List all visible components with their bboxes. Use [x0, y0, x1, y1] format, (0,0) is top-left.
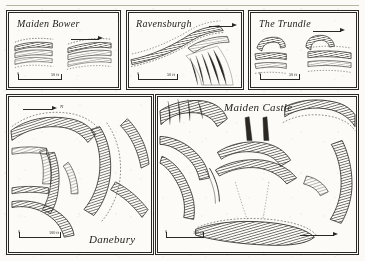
scale-bar-maiden-castle: 0 100 ft: [166, 231, 204, 243]
panel-the-trundle: The Trundle 0 50 ft: [250, 12, 357, 88]
panel-maiden-castle: Maiden Castle 0 100 ft: [157, 96, 357, 253]
north-arrow-maiden-bower: [71, 35, 105, 43]
scale-zero-label: 0: [18, 229, 20, 234]
panel-danebury: N Danebury 0 100 ft: [8, 96, 152, 253]
scale-max-label: 50 ft: [51, 72, 59, 77]
north-arrow-maiden-castle: [300, 231, 344, 239]
north-arrow-ravensburgh: [209, 22, 239, 30]
north-label: N: [60, 104, 63, 109]
panel-title-maiden-castle: Maiden Castle: [224, 101, 292, 113]
plan-drawing-maiden-castle: [158, 97, 356, 252]
scale-zero-label: 0: [259, 71, 261, 76]
scale-zero-label: 0: [165, 229, 167, 234]
scale-max-label: 100 ft: [49, 230, 59, 235]
scale-bar-the-trundle: 0 50 ft: [260, 73, 300, 85]
panel-maiden-bower: Maiden Bower 0 50 ft: [8, 12, 119, 88]
scale-max-label: 50 ft: [167, 72, 175, 77]
scale-zero-label: 0: [137, 71, 139, 76]
panel-title-ravensburgh: Ravensburgh: [136, 18, 192, 29]
north-arrow-the-trundle: [313, 27, 347, 35]
plate-top-rule: [6, 5, 359, 6]
panel-title-the-trundle: The Trundle: [259, 18, 311, 29]
scale-bar-ravensburgh: 0 50 ft: [138, 73, 178, 85]
scale-max-label: 50 ft: [289, 72, 297, 77]
panel-ravensburgh: Ravensburgh 0 50 ft: [128, 12, 242, 88]
north-arrow-danebury: N: [23, 105, 67, 113]
panel-title-danebury: Danebury: [89, 233, 135, 245]
plan-drawing-danebury: [9, 97, 151, 252]
scale-max-label: 100 ft: [193, 230, 203, 235]
scale-bar-maiden-bower: 0 50 ft: [18, 73, 62, 85]
panel-title-maiden-bower: Maiden Bower: [17, 18, 80, 29]
scale-zero-label: 0: [17, 71, 19, 76]
illustration-plate: Maiden Bower 0 50 ft: [0, 0, 365, 261]
scale-bar-danebury: 0 100 ft: [19, 231, 61, 243]
